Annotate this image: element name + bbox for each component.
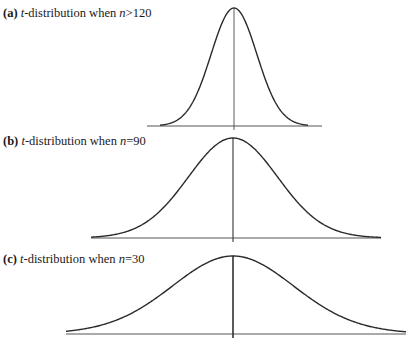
panel-a-plot: [147, 8, 322, 130]
panel-b-plot: [91, 138, 381, 242]
panel-b-curve: [91, 138, 381, 237]
panel-c-curve: [66, 256, 406, 332]
distribution-plots: [0, 0, 412, 341]
panel-c-plot: [66, 256, 406, 338]
